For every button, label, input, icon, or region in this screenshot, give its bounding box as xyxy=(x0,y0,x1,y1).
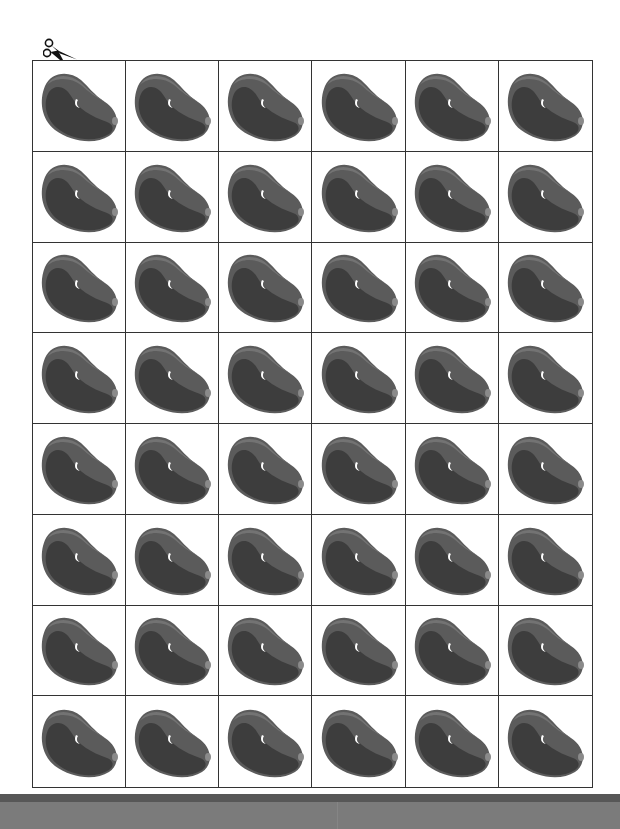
bean-icon xyxy=(221,157,309,237)
bean-icon xyxy=(408,702,496,782)
bean-card[interactable] xyxy=(33,243,126,334)
bean-card[interactable] xyxy=(499,152,592,243)
bean-card[interactable] xyxy=(406,424,499,515)
bean-icon xyxy=(315,520,403,600)
bean-card[interactable] xyxy=(219,515,312,606)
bean-card[interactable] xyxy=(126,152,219,243)
bean-card[interactable] xyxy=(33,606,126,697)
bean-card[interactable] xyxy=(406,333,499,424)
bean-icon xyxy=(128,610,216,690)
bean-icon xyxy=(221,520,309,600)
bean-icon xyxy=(408,247,496,327)
bean-card[interactable] xyxy=(499,424,592,515)
bean-card[interactable] xyxy=(33,696,126,787)
bean-card[interactable] xyxy=(126,424,219,515)
bean-card[interactable] xyxy=(499,333,592,424)
bean-card[interactable] xyxy=(499,61,592,152)
bean-icon xyxy=(501,610,589,690)
bean-icon xyxy=(128,247,216,327)
bean-card[interactable] xyxy=(33,333,126,424)
bean-icon xyxy=(128,157,216,237)
bean-icon xyxy=(221,429,309,509)
bean-icon xyxy=(315,157,403,237)
bean-card[interactable] xyxy=(406,61,499,152)
bean-icon xyxy=(128,66,216,146)
bean-icon xyxy=(408,429,496,509)
bean-icon xyxy=(128,338,216,418)
footer-band xyxy=(0,802,620,829)
bean-card[interactable] xyxy=(312,606,405,697)
bean-card[interactable] xyxy=(126,61,219,152)
bean-icon xyxy=(221,338,309,418)
bean-card[interactable] xyxy=(499,515,592,606)
bean-icon xyxy=(35,338,123,418)
bean-card[interactable] xyxy=(33,152,126,243)
bean-card[interactable] xyxy=(126,515,219,606)
bean-card[interactable] xyxy=(499,606,592,697)
bean-card[interactable] xyxy=(406,152,499,243)
bean-icon xyxy=(315,66,403,146)
bean-card[interactable] xyxy=(312,424,405,515)
bean-icon xyxy=(501,520,589,600)
bean-card[interactable] xyxy=(406,606,499,697)
bean-card[interactable] xyxy=(499,696,592,787)
bean-icon xyxy=(35,429,123,509)
bean-icon xyxy=(408,66,496,146)
bean-card[interactable] xyxy=(406,243,499,334)
bean-card[interactable] xyxy=(312,696,405,787)
bean-icon xyxy=(408,157,496,237)
bean-card[interactable] xyxy=(312,243,405,334)
bean-icon xyxy=(128,429,216,509)
bean-card[interactable] xyxy=(312,333,405,424)
bean-card[interactable] xyxy=(219,696,312,787)
bean-icon xyxy=(408,520,496,600)
bean-icon xyxy=(35,66,123,146)
footer-strip xyxy=(0,794,620,802)
bean-icon xyxy=(35,702,123,782)
bean-card[interactable] xyxy=(33,424,126,515)
bean-icon xyxy=(501,338,589,418)
bean-icon xyxy=(35,157,123,237)
bean-icon xyxy=(35,610,123,690)
bean-card[interactable] xyxy=(219,152,312,243)
bean-card[interactable] xyxy=(219,243,312,334)
bean-card[interactable] xyxy=(406,696,499,787)
bean-card[interactable] xyxy=(219,61,312,152)
bean-card[interactable] xyxy=(406,515,499,606)
bean-icon xyxy=(501,66,589,146)
bean-card[interactable] xyxy=(126,243,219,334)
bean-icon xyxy=(315,338,403,418)
bean-card[interactable] xyxy=(312,515,405,606)
bean-card[interactable] xyxy=(219,333,312,424)
bean-icon xyxy=(315,429,403,509)
bean-card[interactable] xyxy=(33,61,126,152)
bean-icon xyxy=(501,429,589,509)
bean-icon xyxy=(315,247,403,327)
bean-icon xyxy=(501,247,589,327)
bean-card[interactable] xyxy=(126,606,219,697)
bean-icon xyxy=(315,702,403,782)
bean-icon xyxy=(128,702,216,782)
bean-icon xyxy=(221,702,309,782)
bean-icon xyxy=(221,66,309,146)
footer-seam xyxy=(337,802,338,829)
bean-icon xyxy=(35,520,123,600)
bean-icon xyxy=(408,338,496,418)
bean-card[interactable] xyxy=(219,424,312,515)
bean-icon xyxy=(501,157,589,237)
bean-icon xyxy=(221,610,309,690)
bean-card[interactable] xyxy=(126,333,219,424)
bean-card[interactable] xyxy=(33,515,126,606)
bean-card[interactable] xyxy=(219,606,312,697)
bean-icon xyxy=(315,610,403,690)
bean-icon xyxy=(128,520,216,600)
bean-icon xyxy=(408,610,496,690)
bean-icon xyxy=(501,702,589,782)
bean-card[interactable] xyxy=(499,243,592,334)
bean-grid xyxy=(32,60,593,788)
bean-card[interactable] xyxy=(312,61,405,152)
bean-card[interactable] xyxy=(126,696,219,787)
bean-card[interactable] xyxy=(312,152,405,243)
scissors-icon xyxy=(43,38,77,62)
bean-icon xyxy=(221,247,309,327)
